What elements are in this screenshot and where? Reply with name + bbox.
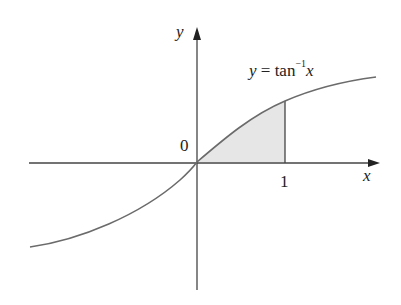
- tick-label-1: 1: [280, 173, 289, 190]
- function-label-eq: = tan: [257, 61, 296, 80]
- function-label-exp: −1: [295, 58, 306, 69]
- function-label: y = tan−1x: [249, 61, 314, 79]
- y-axis-label: y: [176, 23, 184, 40]
- arctan-graph: [0, 0, 401, 305]
- x-axis-label: x: [363, 167, 371, 184]
- function-label-y: y: [249, 61, 257, 80]
- y-axis-arrow-icon: [193, 27, 201, 40]
- function-label-x: x: [306, 61, 314, 80]
- shaded-area: [197, 101, 285, 162]
- origin-label: 0: [180, 137, 189, 154]
